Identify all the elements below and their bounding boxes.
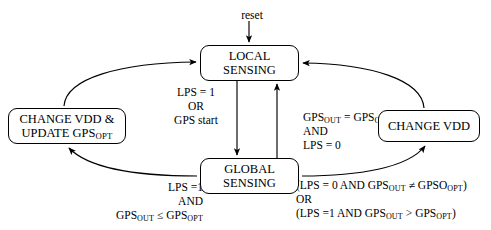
state-local-sensing-line1: LOCAL [229, 49, 271, 63]
edge-label-global-to-change-vdd-line3: (LPS =1 AND GPSOUT > GPSOPT) [296, 206, 488, 220]
state-change-vdd[interactable]: CHANGE VDD [378, 110, 480, 142]
subscript-opt: OPT [187, 214, 203, 223]
edge-label-local-to-global-line2: OR [150, 99, 242, 113]
state-global-sensing-line1: GLOBAL [224, 162, 275, 176]
edge-label-reset: reset [222, 8, 282, 22]
edge-label-reset-text: reset [222, 8, 282, 22]
state-change-update-line2: UPDATE GPSOPT [21, 126, 112, 140]
state-change-update-line1: CHANGE VDD & [20, 112, 115, 126]
subscript-out: OUT [137, 214, 154, 223]
edge-label-local-to-global-line3: GPS start [150, 113, 242, 127]
subscript-out: OUT [324, 116, 341, 125]
state-transition-diagram: LOCAL SENSING GLOBAL SENSING CHANGE VDD … [0, 0, 491, 230]
subscript-opt: OPT [95, 131, 112, 141]
state-change-vdd-line1: CHANGE VDD [388, 119, 470, 133]
subscript-out: OUT [389, 184, 406, 193]
edge-label-global-to-change-vdd-line1: (LPS = 0 AND GPSOUT ≠ GPSOOPT) [296, 178, 488, 192]
edge-label-global-to-change-update-line3: GPSOUT ≤ GPSOPT [8, 208, 203, 222]
edge-label-global-to-change-update: LPS =1 AND GPSOUT ≤ GPSOPT [8, 180, 203, 222]
edge-change-vdd-to-local [303, 63, 424, 108]
edge-label-global-to-change-update-line1: LPS =1 [8, 180, 203, 194]
subscript-out: OUT [386, 212, 403, 221]
edge-label-global-to-change-update-line2: AND [8, 194, 203, 208]
state-local-sensing[interactable]: LOCAL SENSING [200, 45, 299, 81]
state-global-sensing[interactable]: GLOBAL SENSING [200, 158, 299, 194]
state-change-vdd-and-update-gps-opt[interactable]: CHANGE VDD & UPDATE GPSOPT [8, 108, 126, 144]
edge-label-local-to-global: LPS = 1 OR GPS start [150, 85, 242, 127]
edge-label-local-to-global-line1: LPS = 1 [150, 85, 242, 99]
subscript-opt: OPT [447, 184, 463, 193]
edge-global-to-change-update [69, 148, 197, 176]
state-global-sensing-line2: SENSING [223, 176, 276, 190]
edge-label-global-to-change-vdd: (LPS = 0 AND GPSOUT ≠ GPSOOPT) OR (LPS =… [296, 178, 488, 220]
edge-label-global-to-change-vdd-line2: OR [296, 192, 488, 206]
subscript-opt: OPT [436, 212, 452, 221]
state-local-sensing-line2: SENSING [223, 63, 276, 77]
